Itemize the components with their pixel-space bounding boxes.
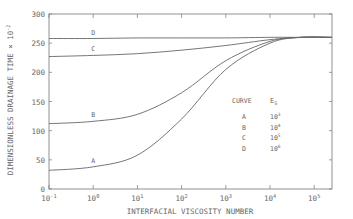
- legend-curve-A: A: [242, 113, 246, 121]
- x-tick-label: 104: [264, 193, 276, 203]
- y-tick-label: 300: [31, 10, 45, 19]
- legend-header-curve: CURVE: [232, 97, 252, 105]
- x-tick-label: 102: [175, 193, 187, 203]
- x-tick-label: 10-1: [41, 193, 56, 203]
- legend-value-D: 106: [270, 144, 281, 153]
- chart: 050100150200250300 10-110010110210310410…: [0, 0, 353, 219]
- curve-label-D: D: [91, 29, 95, 37]
- y-tick-label: 0: [40, 185, 45, 194]
- y-tick-label: 200: [31, 68, 45, 77]
- y-tick-label: 150: [31, 98, 45, 107]
- y-axis-label: DIMENSIONLESS DRAINAGE TIME × 10-2: [5, 25, 15, 176]
- x-axis-label: INTERFACIAL VISCOSITY NUMBER: [127, 207, 254, 216]
- x-tick-label: 103: [220, 193, 232, 203]
- legend: CURVEESA103B104C105D106: [232, 97, 281, 153]
- curve-label-B: B: [91, 111, 95, 119]
- y-tick-label: 250: [31, 39, 45, 48]
- curve-A: [49, 37, 332, 170]
- legend-curve-D: D: [242, 145, 246, 153]
- y-tick-label: 50: [36, 156, 46, 165]
- curve-label-A: A: [91, 157, 95, 165]
- x-tick-label: 101: [131, 193, 143, 203]
- y-axis-label-group: DIMENSIONLESS DRAINAGE TIME × 10-2: [5, 25, 15, 176]
- y-tick-label: 100: [31, 127, 45, 136]
- legend-value-C: 105: [270, 133, 281, 142]
- x-tick-label: 100: [87, 193, 99, 203]
- curve-label-C: C: [91, 45, 95, 53]
- legend-value-A: 103: [270, 112, 281, 121]
- legend-curve-C: C: [242, 134, 246, 142]
- legend-curve-B: B: [242, 124, 246, 132]
- legend-value-B: 104: [270, 123, 281, 132]
- x-axis-ticks: 10-1100101102103104105: [41, 14, 320, 203]
- x-tick-label: 105: [308, 193, 320, 203]
- legend-header-es: ES: [270, 97, 277, 106]
- curves: ABCD: [49, 29, 332, 171]
